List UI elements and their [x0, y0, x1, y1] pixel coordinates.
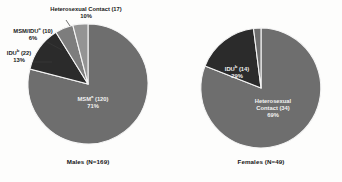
females-pie-svg [199, 26, 323, 150]
females-label-heterosexual-line2: Contact (34) [256, 105, 290, 111]
females-label-idu-text: IDU [225, 66, 235, 72]
females-label-idu: IDUb (14) 29% [211, 66, 263, 80]
males-label-idu-text: IDU [7, 50, 17, 56]
males-label-idu-pct: 13% [13, 57, 25, 63]
females-caption: Females (N=49) [209, 158, 313, 165]
males-label-msm-idu-pct: 6% [29, 35, 37, 41]
males-label-msm-text: MSM [77, 96, 91, 102]
males-label-msm-idu-count: (10) [41, 28, 53, 34]
females-label-idu-pct: 29% [231, 73, 243, 79]
males-label-heterosexual-pct: 10% [80, 13, 92, 19]
males-label-msm: MSMa (120) 71% [58, 96, 128, 110]
females-pie-chart [199, 26, 323, 150]
males-label-idu-count: (22) [19, 50, 31, 56]
males-label-msm-idu: MSM/IDUc (10) 6% [3, 28, 63, 42]
females-label-heterosexual: Heterosexual Contact (34) 69% [238, 98, 308, 119]
males-label-msm-pct: 71% [87, 103, 99, 109]
males-caption: Males (N=169) [36, 158, 140, 165]
males-label-msm-idu-text: MSM/IDU [13, 28, 38, 34]
males-label-idu: IDUb (22) 13% [0, 50, 42, 64]
females-label-heterosexual-pct: 69% [267, 112, 279, 118]
males-label-heterosexual: Heterosexual Contact (17) 10% [38, 6, 134, 20]
leader-line-heterosexual [66, 20, 70, 26]
males-label-msm-count: (120) [93, 96, 108, 102]
dual-pie-chart-figure: Heterosexual Contact (17) 10% MSM/IDUc (… [0, 0, 342, 182]
females-label-idu-count: (14) [237, 66, 249, 72]
females-label-heterosexual-line1: Heterosexual [255, 98, 291, 104]
males-label-heterosexual-text: Heterosexual Contact (17) [50, 6, 122, 12]
leader-line-msm-idu [47, 42, 62, 50]
